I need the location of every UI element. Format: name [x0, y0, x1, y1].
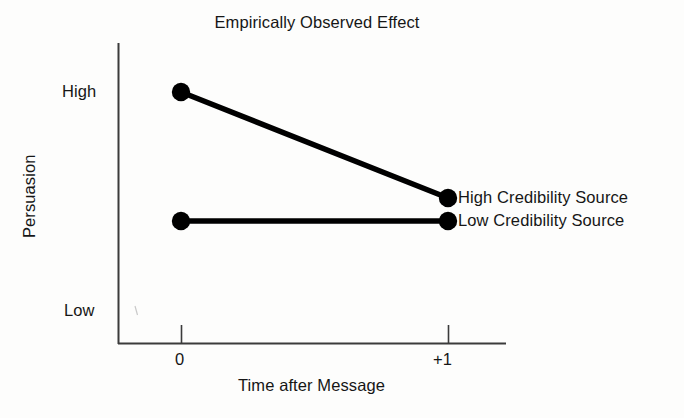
- y-axis-title: Persuasion: [21, 141, 38, 251]
- x-tick-label-plus1: +1: [433, 351, 452, 368]
- legend-label-high-credibility-source: High Credibility Source: [458, 189, 628, 206]
- chart-title: Empirically Observed Effect: [0, 14, 634, 31]
- data-point-high-credibility-t0: [172, 83, 190, 101]
- data-point-low-credibility-t1: [439, 212, 457, 230]
- chart-plot-area: [0, 0, 684, 418]
- scan-speck: [135, 306, 138, 315]
- y-tick-label-high: High: [62, 83, 96, 100]
- series-line-high-credibility: [181, 92, 448, 198]
- x-axis-title: Time after Message: [118, 377, 505, 394]
- x-tick-label-0: 0: [175, 351, 184, 368]
- y-tick-label-low: Low: [64, 302, 95, 319]
- data-point-high-credibility-t1: [439, 189, 457, 207]
- data-point-low-credibility-t0: [172, 212, 190, 230]
- legend-label-low-credibility-source: Low Credibility Source: [458, 212, 624, 229]
- chart-figure: Empirically Observed Effect Persuasion H…: [0, 0, 684, 418]
